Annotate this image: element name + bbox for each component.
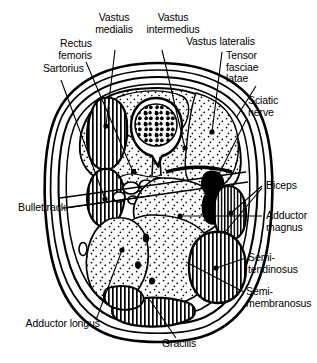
adductor-brevis-slip (104, 286, 144, 310)
saphenous-vein (79, 243, 87, 256)
label-vastus-intermedius: Vastus intermedius (130, 12, 216, 35)
label-adductor-longus: Adductor longus (8, 318, 100, 330)
label-semimembranosus: Semi- membranosus (246, 286, 317, 309)
label-sciatic-nerve: Sciatic nerve (248, 95, 306, 118)
label-rectus-femoris: Rectus femoris (16, 38, 92, 61)
label-adductor-magnus: Adductor magnus (266, 210, 317, 233)
label-semitendinosus: Semi- tendinosus (248, 252, 314, 275)
femur-marrow (135, 104, 177, 146)
label-bullettrack: Bullettrack (2, 202, 66, 214)
label-sartorius: Sartorius (6, 63, 84, 75)
label-tensor-fasciae-latae: Tensor fasciae latae (226, 50, 286, 85)
label-vastus-lateralis: Vastus lateralis (186, 36, 284, 48)
label-biceps: Biceps (266, 180, 316, 192)
label-gracilis: Gracilis (162, 338, 218, 350)
vastus-medialis-muscle (87, 98, 127, 170)
